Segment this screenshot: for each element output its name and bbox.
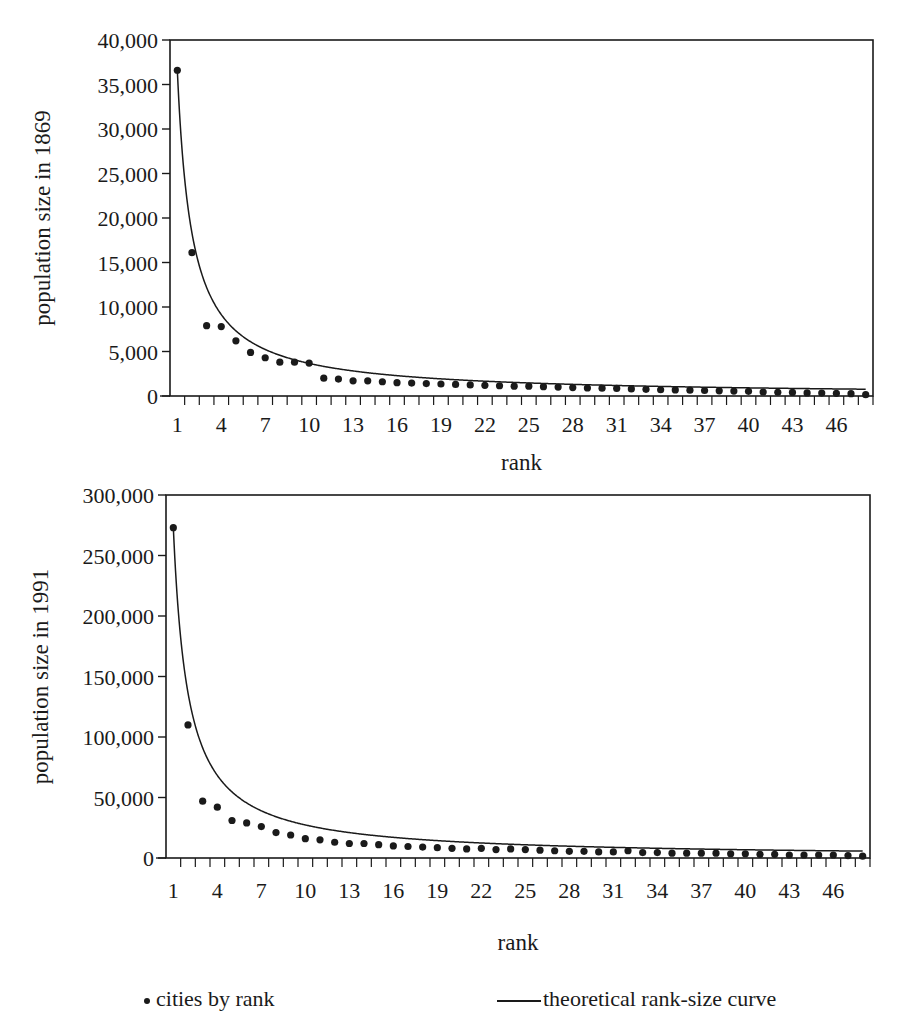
dot-icon (144, 998, 150, 1004)
city-point (335, 375, 342, 382)
x-tick-label: 34 (650, 412, 672, 437)
city-point (423, 380, 430, 387)
x-tick-label: 10 (298, 412, 320, 437)
city-point (803, 389, 810, 396)
city-point (624, 847, 631, 854)
y-tick-label: 150,000 (83, 665, 155, 690)
x-tick-label: 31 (606, 412, 628, 437)
city-point (657, 386, 664, 393)
city-point (730, 388, 737, 395)
x-tick-label: 34 (646, 878, 668, 903)
theoretical-curve (177, 70, 865, 389)
city-point (580, 848, 587, 855)
city-point (272, 829, 279, 836)
city-point (452, 381, 459, 388)
city-point (522, 846, 529, 853)
x-tick-label: 43 (781, 412, 803, 437)
city-point (184, 721, 191, 728)
x-tick-label: 40 (734, 878, 756, 903)
city-point (786, 851, 793, 858)
city-point (393, 379, 400, 386)
city-point (170, 524, 177, 531)
x-tick-label: 16 (386, 412, 408, 437)
x-tick-label: 28 (558, 878, 580, 903)
legend-dots: cities by rank (144, 986, 275, 1012)
city-point (536, 847, 543, 854)
chart-1: 05,00010,00015,00020,00025,00030,00035,0… (30, 28, 873, 475)
plot-frame (170, 40, 873, 396)
city-point (859, 853, 866, 860)
city-point (771, 851, 778, 858)
x-tick-label: 1 (168, 878, 179, 903)
city-point (584, 384, 591, 391)
y-tick-label: 300,000 (83, 483, 155, 508)
city-point (434, 844, 441, 851)
city-point (174, 67, 181, 74)
city-point (492, 846, 499, 853)
city-point (668, 850, 675, 857)
city-point (364, 377, 371, 384)
city-point (683, 850, 690, 857)
x-tick-label: 25 (518, 412, 540, 437)
city-point (610, 848, 617, 855)
city-point (800, 851, 807, 858)
x-tick-label: 37 (694, 412, 716, 437)
city-point (672, 386, 679, 393)
city-point (830, 851, 837, 858)
city-point (258, 823, 265, 830)
y-tick-label: 5,000 (109, 340, 159, 365)
line-icon (497, 1000, 541, 1002)
city-point (218, 323, 225, 330)
x-tick-label: 40 (738, 412, 760, 437)
city-point (375, 841, 382, 848)
x-tick-label: 37 (690, 878, 712, 903)
city-point (349, 377, 356, 384)
city-point (569, 384, 576, 391)
city-point (467, 381, 474, 388)
city-point (419, 844, 426, 851)
chart-2: 050,000100,000150,000200,000250,000300,0… (28, 483, 870, 955)
city-point (654, 849, 661, 856)
city-point (214, 804, 221, 811)
city-point (598, 385, 605, 392)
legend-dots-label: cities by rank (156, 986, 275, 1011)
city-point (188, 249, 195, 256)
city-point (408, 379, 415, 386)
city-point (815, 851, 822, 858)
city-point (331, 839, 338, 846)
city-point (756, 851, 763, 858)
city-point (551, 847, 558, 854)
city-point (628, 385, 635, 392)
city-point (540, 383, 547, 390)
y-tick-label: 10,000 (98, 295, 159, 320)
city-point (199, 798, 206, 805)
city-point (379, 378, 386, 385)
city-point (639, 849, 646, 856)
x-tick-label: 19 (430, 412, 452, 437)
city-point (496, 382, 503, 389)
city-point (276, 359, 283, 366)
city-point (360, 840, 367, 847)
x-tick-label: 13 (338, 878, 360, 903)
y-tick-label: 30,000 (98, 117, 159, 142)
x-tick-label: 46 (822, 878, 844, 903)
y-tick-label: 50,000 (94, 786, 155, 811)
y-tick-label: 25,000 (98, 162, 159, 187)
x-axis-title: rank (498, 930, 539, 955)
city-point (745, 388, 752, 395)
x-tick-label: 7 (260, 412, 271, 437)
city-point (844, 852, 851, 859)
x-tick-label: 22 (474, 412, 496, 437)
city-point (320, 375, 327, 382)
city-point (448, 845, 455, 852)
city-point (847, 390, 854, 397)
x-tick-label: 28 (562, 412, 584, 437)
city-point (478, 845, 485, 852)
x-tick-label: 4 (212, 878, 223, 903)
y-axis-title: population size in 1869 (30, 110, 55, 325)
city-point (316, 836, 323, 843)
city-point (247, 349, 254, 356)
x-tick-label: 4 (216, 412, 227, 437)
x-tick-label: 22 (470, 878, 492, 903)
city-point (203, 322, 210, 329)
